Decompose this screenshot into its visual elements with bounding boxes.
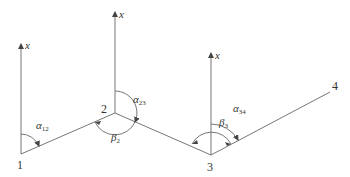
diagram-lines xyxy=(0,0,350,177)
beta3-label: β3 xyxy=(219,117,228,130)
alpha23-label: α23 xyxy=(133,94,146,107)
leg-2-3 xyxy=(115,113,211,155)
beta2-label: β2 xyxy=(111,132,120,145)
point-3-label: 3 xyxy=(207,161,213,173)
x-axis-2-label: x xyxy=(119,9,124,20)
point-1-label: 1 xyxy=(17,159,23,171)
x-axis-1-label: x xyxy=(25,40,30,51)
point-4-label: 4 xyxy=(332,80,338,92)
leg-3-4 xyxy=(211,92,330,155)
alpha12-label: α12 xyxy=(36,120,49,133)
alpha34-label: α34 xyxy=(233,103,246,116)
x-axis-3-label: x xyxy=(215,50,220,61)
traverse-diagram: 1 2 3 4 x x x α12 α23 α34 β2 β3 xyxy=(0,0,350,177)
alpha12-arc xyxy=(21,134,39,146)
point-2-label: 2 xyxy=(101,103,107,115)
